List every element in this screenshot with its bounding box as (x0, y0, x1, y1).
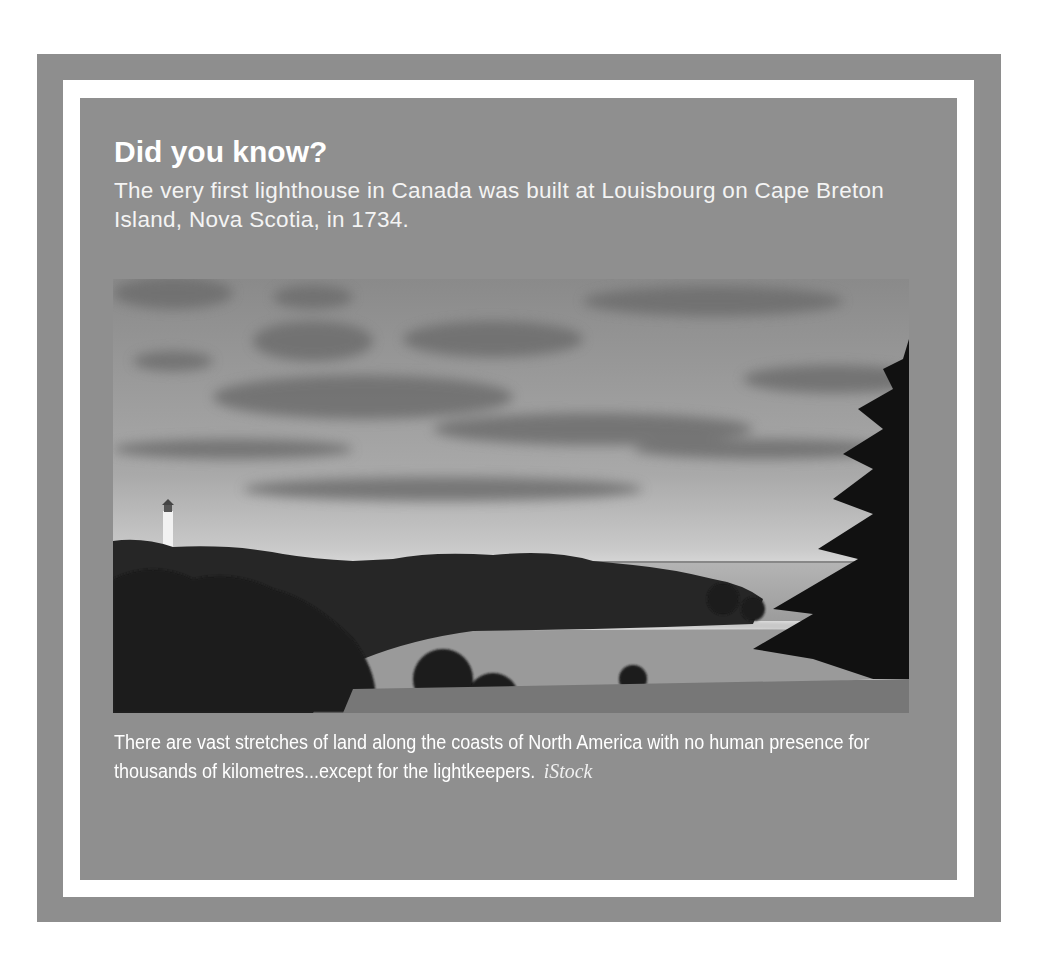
callout-panel: Did you know? The very first lighthouse … (80, 98, 957, 880)
photo-lighthouse-coast-icon (113, 279, 909, 713)
photo-caption: There are vast stretches of land along t… (114, 728, 924, 785)
callout-rule: Did you know? The very first lighthouse … (63, 80, 974, 897)
callout-lead-text: The very first lighthouse in Canada was … (114, 176, 944, 234)
callout-heading: Did you know? (114, 134, 327, 170)
callout-outer-frame: Did you know? The very first lighthouse … (37, 54, 1001, 922)
lighthouse-photo (113, 279, 909, 713)
photo-credit: iStock (544, 758, 592, 783)
caption-text: There are vast stretches of land along t… (114, 731, 869, 782)
